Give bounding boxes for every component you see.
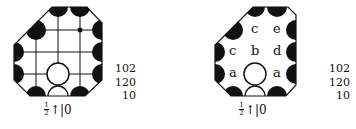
fraction-denominator: 2: [239, 110, 243, 117]
fraction-denominator: 2: [44, 110, 48, 117]
label-a: a: [273, 65, 281, 80]
right-caption: 1 2 ↑|0: [239, 102, 267, 117]
right-board-graphic: [200, 0, 320, 100]
left-board: [0, 0, 120, 100]
score-2: 120: [106, 76, 136, 90]
fraction-numerator: 1: [239, 102, 243, 109]
score-3: 10: [106, 89, 136, 103]
fraction: 1 2: [44, 102, 49, 117]
score-3: 10: [320, 89, 350, 103]
label-d: d: [273, 43, 281, 58]
caption-rest: ↑|0: [50, 103, 72, 117]
label-e: e: [273, 21, 281, 36]
left-board-graphic: [0, 0, 120, 100]
label-c: c: [251, 21, 258, 36]
label-a: a: [229, 65, 237, 80]
score-2: 120: [320, 76, 350, 90]
right-board: c e c b d a a: [200, 0, 320, 100]
left-scores: 102 120 10: [106, 62, 136, 103]
label-b: b: [251, 43, 259, 58]
left-caption: 1 2 ↑|0: [44, 102, 72, 117]
fraction: 1 2: [239, 102, 244, 117]
score-1: 102: [320, 62, 350, 76]
fraction-numerator: 1: [44, 102, 48, 109]
caption-rest: ↑|0: [245, 103, 267, 117]
right-scores: 102 120 10: [320, 62, 350, 103]
label-c: c: [229, 43, 236, 58]
score-1: 102: [106, 62, 136, 76]
